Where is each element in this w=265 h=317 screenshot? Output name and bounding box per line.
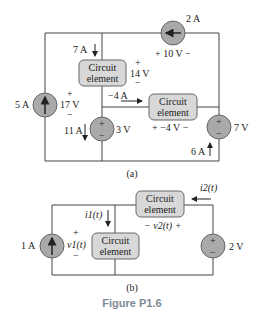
element-label-line2: element (157, 107, 189, 118)
current-source-1a: 1 A + v1(t) − (21, 227, 87, 261)
current-label: −4 A (108, 90, 129, 101)
circuit-a: 2 A + 10 V − 7 A Circuit element + 14 V … (15, 13, 249, 180)
voltage-plus: + (67, 88, 73, 99)
current-source-5a: 5 A + 17 V − (15, 88, 80, 120)
voltage-minus: − (73, 250, 79, 261)
voltage-plus: + (135, 57, 141, 68)
minus-sign: − (210, 247, 216, 258)
source-value: 7 V (234, 122, 249, 133)
minus-sign: − (216, 128, 222, 139)
circuit-element-b2: Circuit element i2(t) − v2(t) + (136, 182, 218, 232)
circuit-b-label: (b) (126, 282, 138, 294)
element-label-line1: Circuit (102, 235, 130, 246)
element-label-line2: element (87, 73, 119, 84)
circuit-element-top: 7 A Circuit element + 14 V − (73, 44, 150, 88)
element-label-line1: Circuit (159, 96, 187, 107)
source-value: 2 V (229, 241, 244, 252)
circuit-figure: 2 A + 10 V − 7 A Circuit element + 14 V … (0, 0, 265, 317)
voltage-minus: − (135, 77, 141, 88)
voltage-source-7v: + − 7 V 6 A (191, 115, 249, 157)
element-label-line1: Circuit (146, 193, 174, 204)
circuit-a-label: (a) (126, 168, 137, 180)
minus-sign: − (99, 130, 105, 141)
current-label: i2(t) (200, 182, 218, 194)
source-value: 3 V (116, 124, 131, 135)
current-label: 11 A (64, 125, 84, 136)
circuit-b: Circuit element i2(t) − v2(t) + i1(t) Ci… (21, 182, 244, 294)
source-value: 5 A (15, 99, 30, 110)
plus-sign: + (210, 235, 216, 246)
current-label: 7 A (73, 44, 88, 55)
figure-caption: Figure P1.6 (102, 297, 161, 309)
current-label: i1(t) (85, 209, 103, 221)
voltage-value: − v2(t) + (144, 220, 181, 232)
element-label-line1: Circuit (89, 62, 117, 73)
current-label: 6 A (191, 146, 206, 157)
current-source-2a: 2 A + 10 V − (155, 13, 201, 59)
source-voltage: + 10 V − (155, 48, 191, 59)
source-value: 1 A (21, 240, 36, 251)
plus-sign: + (99, 118, 105, 129)
voltage-source-2v: + − 2 V (201, 234, 244, 258)
source-value: 2 A (186, 13, 201, 24)
element-label-line2: element (144, 204, 176, 215)
element-label-line2: element (100, 246, 132, 257)
circuit-element-b1: i1(t) Circuit element (85, 209, 139, 259)
voltage-plus: + (73, 227, 79, 238)
voltage-minus: − (67, 109, 73, 120)
plus-sign: + (216, 116, 222, 127)
voltage-value: + −4 V − (152, 122, 189, 133)
voltage-source-3v: + − 3 V 11 A (64, 117, 131, 141)
